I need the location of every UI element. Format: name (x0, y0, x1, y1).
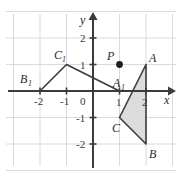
vertex-label-A: A (148, 51, 157, 65)
point-label-P: P (106, 49, 115, 63)
vertex-label-B: B (149, 147, 157, 161)
tick-label-x-neg1: -1 (60, 95, 69, 107)
tick-label-y-neg2: -2 (76, 138, 85, 150)
vertex-label-B1-base: B (20, 72, 28, 86)
y-axis-label: y (79, 13, 86, 27)
origin-label: 0 (80, 95, 86, 107)
tick-label-y-pos2: 2 (80, 32, 86, 44)
x-axis-label: x (163, 93, 170, 107)
tick-label-x-neg2: -2 (34, 95, 43, 107)
tick-label-x-pos1: 1 (116, 96, 122, 108)
vertex-label-C: C (112, 121, 121, 135)
tick-label-x-pos2: 2 (142, 96, 148, 108)
vertex-label-B1-subscript: 1 (28, 79, 32, 88)
point-P-marker (116, 61, 123, 68)
geometry-figure: x y -2 -1 1 2 2 1 -1 -2 0 A B C P A 1 B … (0, 0, 179, 176)
vertex-label-A1-subscript: 1 (121, 83, 125, 92)
coordinate-plane-svg: x y -2 -1 1 2 2 1 -1 -2 0 A B C P A 1 B … (0, 0, 179, 176)
tick-label-y-pos1: 1 (80, 59, 86, 71)
vertex-label-A1-base: A (112, 76, 121, 90)
vertex-label-C1-subscript: 1 (62, 55, 66, 64)
tick-label-y-neg1: -1 (76, 112, 85, 124)
